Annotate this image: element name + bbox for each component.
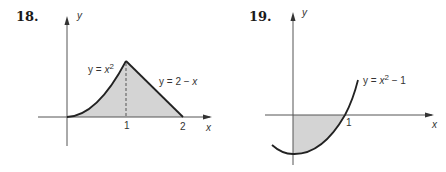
- x-axis-label-19: x: [431, 119, 438, 130]
- curve-label-2-minus-x: y = 2 − x: [159, 76, 198, 87]
- y-axis-arrow-icon: [291, 12, 296, 21]
- x-axis-label-18: x: [205, 122, 212, 133]
- x-axis-arrow-icon: [425, 113, 434, 118]
- y-axis-arrow-icon: [65, 16, 70, 25]
- shaded-region-18: [67, 61, 183, 117]
- y-axis-label-19: y: [301, 7, 308, 18]
- figure-19: y x 1 y = x2 − 1: [265, 7, 438, 165]
- figures-canvas: y x 1 2 y = x2 y = 2 − x y x 1 y = x2 − …: [0, 0, 446, 172]
- y-axis-label-18: y: [76, 10, 83, 21]
- x-axis-arrow-icon: [203, 115, 212, 120]
- curve-label-x-squared-minus-1: y = x2 − 1: [363, 73, 406, 86]
- shaded-region-19: [293, 115, 345, 154]
- tick-2-18: 2: [180, 121, 186, 132]
- tick-1-18: 1: [124, 120, 130, 131]
- curve-label-x-squared: y = x2: [88, 62, 114, 75]
- tick-1-19: 1: [346, 117, 352, 128]
- figure-18: y x 1 2 y = x2 y = 2 − x: [38, 10, 212, 146]
